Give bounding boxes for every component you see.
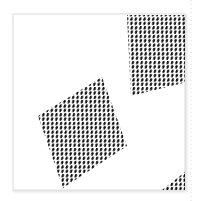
image-canvas: Dotted Parallelogram Pattern [0,0,199,201]
artboard-svg [0,0,199,201]
